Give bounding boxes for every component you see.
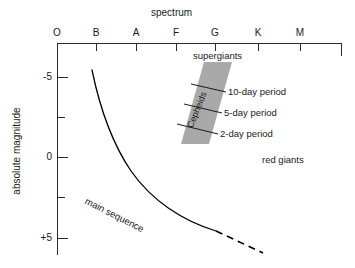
x-tick-label-m: M [290,27,310,38]
annotation-5-day-period: 5-day period [224,107,277,118]
chart-title: spectrum [151,8,192,18]
annotation-supergiants: supergiants [193,51,242,61]
x-tick-label-o: O [47,27,67,38]
main-sequence-dashed-tail [216,231,263,253]
y-tick-label-minus5: -5 [43,71,52,82]
annotation-red-giants: red giants [262,155,304,165]
y-tick-wrap-minus5: -5 [18,71,52,83]
annotation-2-day-period: 2-day period [220,128,273,139]
x-tick-label-a: A [126,27,146,38]
y-tick-wrap-plus5: +5 [18,232,52,244]
y-tick-label-plus5: +5 [41,232,52,243]
y-axis-ticks [57,78,68,239]
hr-diagram-figure: spectrum absolute magnitude O B A F G K … [0,0,355,268]
x-tick-label-g: G [205,27,225,38]
y-tick-wrap-zero: 0 [18,151,52,163]
x-tick-label-k: K [248,27,268,38]
x-tick-label-b: B [86,27,106,38]
x-tick-label-f: F [166,27,186,38]
annotation-10-day-period: 10-day period [228,86,286,97]
diagram-canvas [0,0,355,268]
y-tick-label-zero: 0 [46,151,52,162]
